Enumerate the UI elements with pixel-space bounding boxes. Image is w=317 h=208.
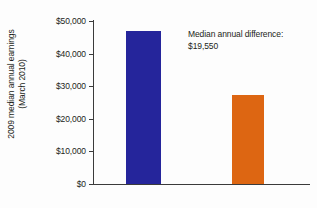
- y-tick-label: $30,000: [56, 81, 86, 91]
- bar-chart: 2009 median annual earnings (March 2010)…: [0, 0, 317, 208]
- annotation-line-1: Median annual difference:: [188, 28, 283, 40]
- y-tick-label: $0: [77, 179, 86, 189]
- y-axis-title-line-2: (March 2010): [17, 59, 28, 108]
- annotation-line-2: $19,550: [188, 40, 283, 52]
- bar-college-graduates: [126, 31, 161, 184]
- y-tick-mark: [89, 21, 93, 22]
- x-axis-line: [93, 184, 310, 185]
- annotation-median-difference: Median annual difference: $19,550: [188, 28, 283, 53]
- y-tick-label: $10,000: [56, 146, 86, 156]
- y-tick-mark: [89, 54, 93, 55]
- y-tick-label: $40,000: [56, 49, 86, 59]
- y-tick-mark: [89, 86, 93, 87]
- y-tick-label: $50,000: [56, 16, 86, 26]
- y-axis-title-line-1: 2009 median annual earnings: [6, 29, 17, 138]
- y-tick-label: $20,000: [56, 114, 86, 124]
- y-tick-mark: [89, 119, 93, 120]
- y-tick-mark: [89, 151, 93, 152]
- bar-high-school-graduates: [232, 95, 264, 184]
- y-tick-mark: [89, 184, 93, 185]
- y-axis-title: 2009 median annual earnings (March 2010): [0, 4, 34, 164]
